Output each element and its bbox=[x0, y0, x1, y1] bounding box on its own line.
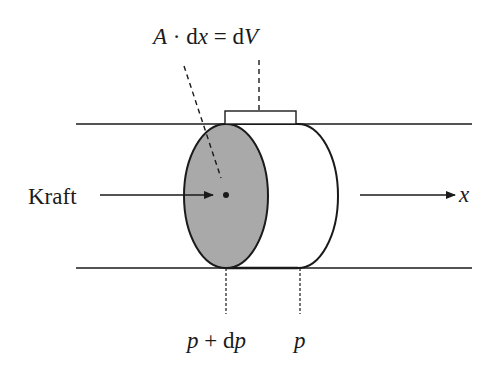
equation-label: A · dx = dV bbox=[151, 24, 261, 49]
fluid-element-diagram: A · dx = dV Kraft x p + dp p bbox=[0, 0, 496, 367]
pressure-left-label: p + dp bbox=[185, 328, 246, 353]
x-axis-label: x bbox=[458, 182, 470, 207]
pressure-right-label: p bbox=[292, 328, 306, 353]
centroid-dot bbox=[223, 192, 229, 198]
force-label: Kraft bbox=[28, 184, 77, 209]
dx-length-bracket bbox=[225, 111, 296, 124]
